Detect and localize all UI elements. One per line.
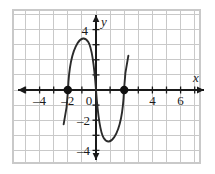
xtick-label--4: –4	[32, 93, 47, 108]
ytick-label-4: 4	[82, 23, 89, 38]
ytick-label--4: –4	[76, 143, 91, 158]
cubic-function-plot: –4 –2 0 4 6 4 –2 –4 x y	[0, 0, 215, 174]
xtick-label-6: 6	[177, 93, 184, 108]
xtick-label-4: 4	[149, 93, 156, 108]
ytick-label--2: –2	[76, 113, 90, 128]
marked-point-right	[120, 86, 128, 94]
xtick-label-0: 0	[86, 93, 93, 108]
y-axis-label: y	[99, 14, 107, 29]
xtick-label--2: –2	[60, 93, 74, 108]
graph-figure: –4 –2 0 4 6 4 –2 –4 x y	[0, 0, 215, 174]
x-axis-label: x	[192, 70, 199, 85]
